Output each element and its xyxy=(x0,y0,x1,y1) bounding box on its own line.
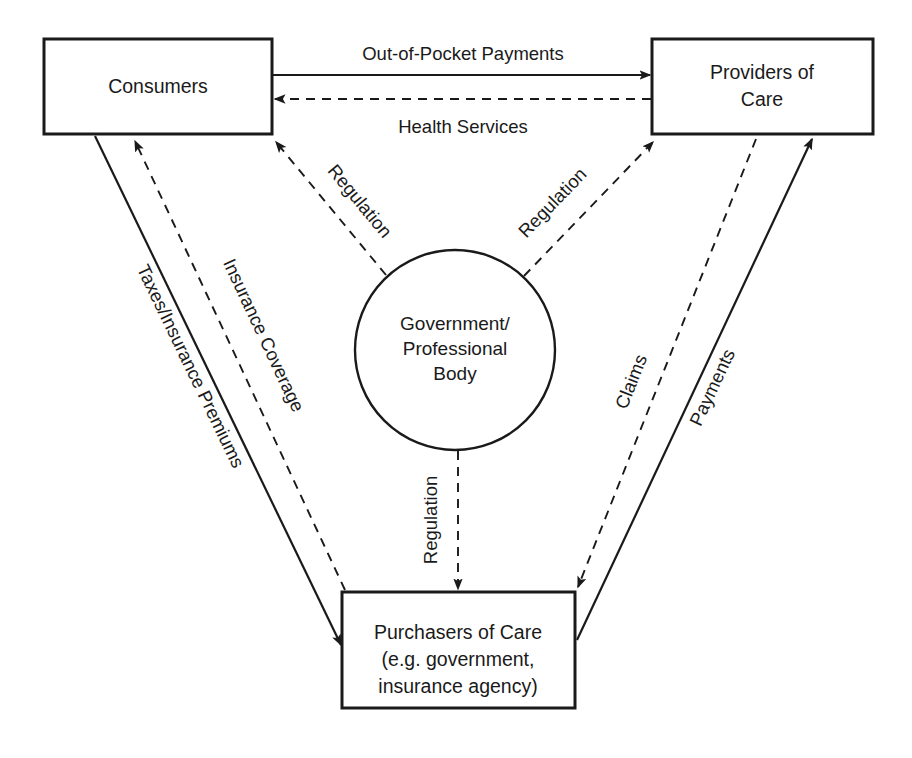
edge-label-regulation-to-consumers: Regulation xyxy=(324,160,397,242)
node-label-purchasers-line2: (e.g. government, xyxy=(382,648,535,670)
edge-label-taxes-insurance-premiums: Taxes/Insurance Premiums xyxy=(133,261,249,471)
edge-taxes-insurance-premiums: Taxes/Insurance Premiums xyxy=(95,136,341,645)
node-label-purchasers-line3: insurance agency) xyxy=(378,675,537,697)
edge-regulation-to-providers: Regulation xyxy=(514,142,653,276)
node-label-purchasers-line1: Purchasers of Care xyxy=(374,621,542,643)
edge-label-regulation-to-providers: Regulation xyxy=(514,163,591,241)
node-government-professional-body[interactable]: Government/ Professional Body xyxy=(355,250,555,450)
edge-label-regulation-to-purchasers: Regulation xyxy=(420,476,441,564)
node-consumers[interactable]: Consumers xyxy=(44,39,272,134)
edge-regulation-to-consumers: Regulation xyxy=(276,142,396,275)
edge-label-claims: Claims xyxy=(611,351,651,411)
edge-label-insurance-coverage: Insurance Coverage xyxy=(219,255,309,415)
node-label-providers-line1: Providers of xyxy=(710,61,815,83)
node-label-consumers: Consumers xyxy=(108,75,208,97)
edge-insurance-coverage: Insurance Coverage xyxy=(135,141,345,590)
node-label-government-line2: Professional xyxy=(403,338,508,359)
edge-label-payments: Payments xyxy=(685,346,739,429)
edge-health-services: Health Services xyxy=(275,99,651,137)
edge-out-of-pocket-payments: Out-of-Pocket Payments xyxy=(273,43,650,75)
node-purchasers-of-care[interactable]: Purchasers of Care (e.g. government, ins… xyxy=(342,592,575,708)
node-label-providers-line2: Care xyxy=(741,88,783,110)
health-system-flow-diagram: Out-of-Pocket Payments Health Services R… xyxy=(0,0,912,758)
edge-label-out-of-pocket-payments: Out-of-Pocket Payments xyxy=(362,43,564,64)
edge-regulation-to-purchasers: Regulation xyxy=(420,451,458,589)
edge-label-health-services: Health Services xyxy=(398,116,528,137)
diagram-canvas: Out-of-Pocket Payments Health Services R… xyxy=(0,0,912,758)
node-providers-of-care[interactable]: Providers of Care xyxy=(652,39,873,134)
node-label-government-line1: Government/ xyxy=(400,313,511,334)
edge-payments: Payments xyxy=(577,139,812,640)
node-label-government-line3: Body xyxy=(433,363,477,384)
